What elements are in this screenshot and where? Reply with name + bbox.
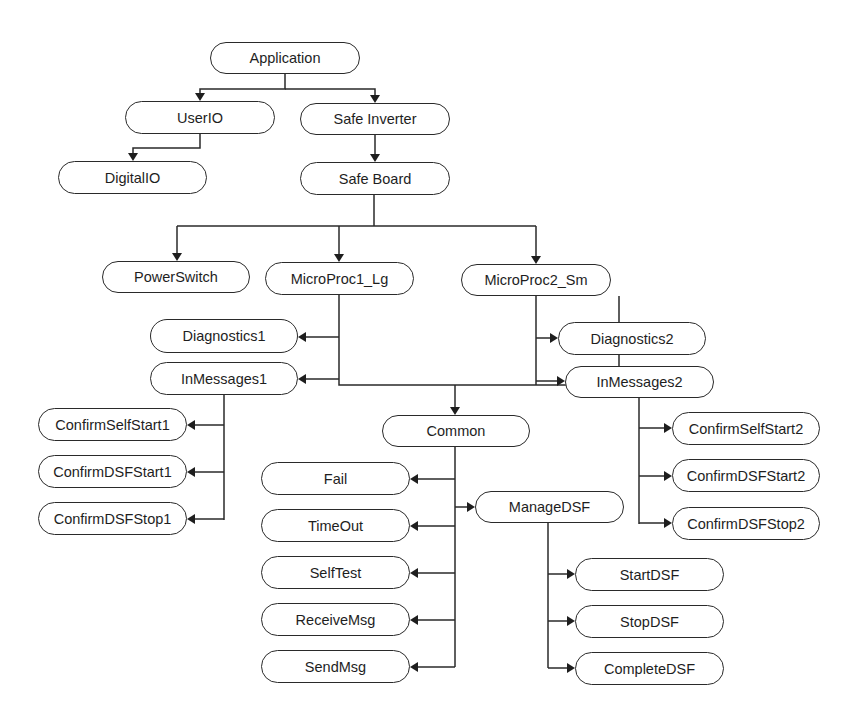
- node-inmessages1: InMessages1: [150, 362, 298, 395]
- node-timeout: TimeOut: [261, 509, 410, 542]
- node-confirmdsfstart1: ConfirmDSFStart1: [38, 455, 187, 488]
- node-diagnostics2: Diagnostics2: [558, 322, 706, 355]
- node-digitalio: DigitalIO: [58, 161, 207, 194]
- node-receivemsg: ReceiveMsg: [261, 603, 410, 636]
- node-confirmdsfstart2: ConfirmDSFStart2: [672, 459, 820, 492]
- hierarchy-diagram: Application UserIO Safe Inverter Digital…: [0, 0, 856, 720]
- node-safe-inverter: Safe Inverter: [300, 103, 450, 135]
- node-fail: Fail: [261, 462, 410, 495]
- node-microproc2-sm: MicroProc2_Sm: [461, 264, 611, 296]
- node-diagnostics1: Diagnostics1: [150, 319, 298, 353]
- node-microproc1-lg: MicroProc1_Lg: [265, 262, 414, 295]
- node-safe-board: Safe Board: [300, 162, 450, 195]
- node-confirmselfstart2: ConfirmSelfStart2: [672, 412, 820, 445]
- node-application: Application: [210, 42, 360, 74]
- node-managedsf: ManageDSF: [475, 491, 624, 523]
- node-powerswitch: PowerSwitch: [102, 261, 250, 293]
- node-inmessages2: InMessages2: [565, 366, 714, 398]
- node-confirmdsfstop2: ConfirmDSFStop2: [672, 507, 820, 540]
- node-stopdsf: StopDSF: [575, 605, 724, 638]
- node-sendmsg: SendMsg: [261, 650, 410, 683]
- node-selftest: SelfTest: [261, 556, 410, 589]
- node-confirmdsfstop1: ConfirmDSFStop1: [38, 502, 187, 535]
- node-confirmselfstart1: ConfirmSelfStart1: [38, 408, 187, 441]
- node-startdsf: StartDSF: [575, 558, 724, 591]
- node-common: Common: [382, 415, 530, 447]
- node-userio: UserIO: [125, 101, 275, 134]
- node-completedsf: CompleteDSF: [575, 652, 724, 685]
